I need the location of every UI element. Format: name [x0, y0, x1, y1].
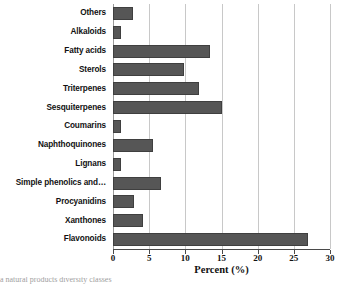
bar-row — [113, 23, 330, 42]
bar-row — [113, 174, 330, 193]
gridline-30 — [330, 4, 331, 249]
category-label-cell: Xanthones — [0, 211, 110, 230]
bar-row — [113, 230, 330, 249]
x-tick-label: 0 — [111, 254, 116, 263]
category-label: Flavonoids — [64, 235, 106, 243]
category-label: Others — [80, 9, 106, 17]
x-tick-label: 20 — [253, 254, 262, 263]
bars-layer — [113, 4, 330, 249]
bar — [113, 233, 308, 246]
category-label: Simple phenolics and… — [16, 179, 106, 187]
x-tick-label: 15 — [217, 254, 226, 263]
bar — [113, 26, 121, 39]
x-tick-label: 10 — [181, 254, 190, 263]
category-label: Sterols — [79, 66, 106, 74]
category-label-cell: Sesquiterpenes — [0, 98, 110, 117]
category-label: Procyanidins — [56, 198, 106, 206]
bar — [113, 7, 133, 20]
category-label: Sesquiterpenes — [46, 104, 106, 112]
x-tick-label: 25 — [289, 254, 298, 263]
bar — [113, 214, 143, 227]
category-axis: OthersAlkaloidsFatty acidsSterolsTriterp… — [0, 4, 110, 249]
bar — [113, 101, 222, 114]
bar-row — [113, 98, 330, 117]
plot-area — [113, 4, 330, 249]
category-label: Naphthoquinones — [38, 141, 106, 149]
bar — [113, 45, 210, 58]
bar-row — [113, 211, 330, 230]
category-label-cell: Coumarins — [0, 117, 110, 136]
bar — [113, 63, 184, 76]
bar-row — [113, 61, 330, 80]
x-tick-label: 5 — [147, 254, 152, 263]
bar-row — [113, 155, 330, 174]
category-label: Triterpenes — [63, 85, 106, 93]
figure-caption-clipped: a natural products diversity classes — [0, 277, 344, 285]
category-label-cell: Triterpenes — [0, 79, 110, 98]
category-label: Fatty acids — [64, 47, 106, 55]
category-label-cell: Lignans — [0, 155, 110, 174]
category-label: Lignans — [75, 160, 106, 168]
bar — [113, 195, 134, 208]
bar-row — [113, 192, 330, 211]
category-label-cell: Sterols — [0, 61, 110, 80]
category-label-cell: Flavonoids — [0, 230, 110, 249]
category-label-cell: Others — [0, 4, 110, 23]
category-label-cell: Fatty acids — [0, 42, 110, 61]
bar-row — [113, 136, 330, 155]
category-label-cell: Naphthoquinones — [0, 136, 110, 155]
bar-row — [113, 117, 330, 136]
bar-row — [113, 79, 330, 98]
bar — [113, 139, 153, 152]
category-label-cell: Simple phenolics and… — [0, 174, 110, 193]
category-label: Alkaloids — [70, 28, 106, 36]
bar — [113, 177, 161, 190]
bar-row — [113, 42, 330, 61]
category-label-cell: Alkaloids — [0, 23, 110, 42]
bar-chart-figure: OthersAlkaloidsFatty acidsSterolsTriterp… — [0, 0, 344, 285]
bar — [113, 158, 121, 171]
x-tick-label: 30 — [326, 254, 335, 263]
bar — [113, 82, 199, 95]
category-label: Xanthones — [65, 217, 106, 225]
bar-row — [113, 4, 330, 23]
figure-caption-text: a natural products diversity classes — [0, 277, 344, 284]
category-label: Coumarins — [64, 122, 106, 130]
x-axis-title: Percent (%) — [113, 265, 330, 276]
category-label-cell: Procyanidins — [0, 192, 110, 211]
bar — [113, 120, 121, 133]
